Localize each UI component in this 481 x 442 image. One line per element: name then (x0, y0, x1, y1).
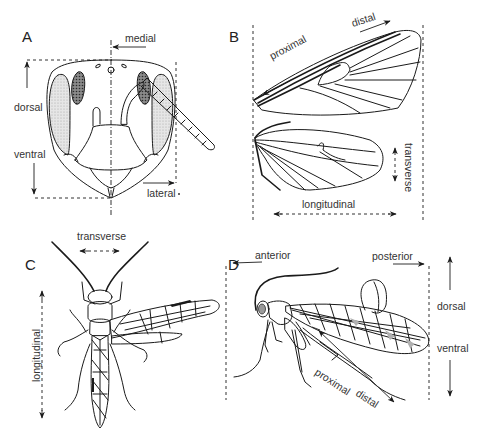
insect-d-midlegs (292, 330, 311, 387)
panel-a: A medial dorsal ventral lateral (14, 28, 215, 215)
wasp-forelegs (70, 310, 130, 332)
label-transverse-c: transverse (77, 230, 126, 242)
orientation-figure: A medial dorsal ventral lateral (0, 0, 481, 442)
label-anterior: anterior (255, 249, 291, 261)
label-dorsal-d: dorsal (437, 300, 466, 312)
label-proximal-b: proximal (267, 33, 308, 62)
label-distal-b: distal (350, 10, 377, 29)
insect-d-thorax (268, 301, 292, 325)
label-longitudinal-b: longitudinal (302, 198, 355, 210)
label-proximal-d: proximal (313, 366, 353, 398)
insect-d-hindlegs (300, 328, 405, 400)
label-longitudinal-c: longitudinal (30, 329, 42, 382)
lateral-dot (178, 193, 180, 195)
forewing-discal-cell (318, 63, 350, 85)
panel-letter-b: B (229, 28, 239, 45)
label-dorsal-a: dorsal (14, 101, 43, 113)
label-medial: medial (125, 32, 156, 44)
wasp-stigma (170, 300, 192, 307)
label-lateral: lateral (147, 187, 176, 199)
label-ventral-a: ventral (14, 148, 46, 160)
panel-b: B proximal distal transverse longitudina… (229, 10, 423, 220)
label-transverse-b: transverse (403, 143, 415, 192)
lateral-ocellus-right (121, 64, 127, 69)
wasp-wing-veins (120, 301, 210, 343)
label-posterior: posterior (372, 250, 413, 262)
wasp-antennae (52, 242, 148, 291)
label-distal-d: distal (354, 387, 381, 410)
dark-patch-right (137, 72, 150, 104)
label-ventral-d: ventral (437, 342, 469, 354)
hindwing-veins (255, 140, 378, 190)
hindwing (255, 130, 383, 190)
dark-patch-left (72, 72, 85, 104)
panel-letter-c: C (25, 256, 36, 273)
wasp-stigma-left (92, 378, 94, 392)
antenna-stub-left (93, 108, 100, 127)
panel-c: C transverse longitudinal (25, 230, 219, 428)
panel-letter-d: D (228, 256, 239, 273)
insect-d-raised-wing (361, 280, 387, 313)
insect-d-eye (259, 304, 266, 314)
wasp-forelegs-front (82, 282, 122, 304)
panel-d: D anterior posterior dorsal ventral prox (226, 249, 469, 410)
panel-letter-a: A (22, 28, 32, 45)
insect-d-forelegs (234, 320, 282, 377)
lateral-ocellus-left (95, 64, 101, 69)
wasp-midlegs (58, 330, 147, 362)
hindwing-base-veins (255, 122, 290, 190)
